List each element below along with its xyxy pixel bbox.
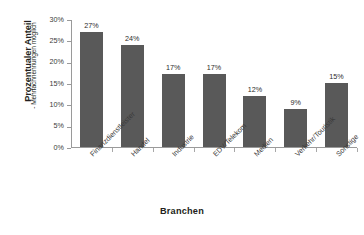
bar-value-label: 12% bbox=[248, 85, 262, 94]
bar-value-label: 17% bbox=[207, 63, 221, 72]
bar-value-label: 9% bbox=[291, 98, 301, 107]
y-axis-tick-label: 20% bbox=[50, 57, 64, 66]
x-axis-tick-mark bbox=[357, 148, 358, 152]
y-axis-tick-label: 0% bbox=[54, 143, 64, 152]
bar-value-label: 27% bbox=[84, 21, 98, 30]
y-axis-tick-label: 5% bbox=[54, 121, 64, 130]
bar-value-label: 24% bbox=[125, 34, 139, 43]
bar: 24% bbox=[121, 45, 144, 147]
y-axis-tick-label: 25% bbox=[50, 36, 64, 45]
x-axis-tick-mark bbox=[316, 148, 317, 152]
x-axis-tick-mark bbox=[275, 148, 276, 152]
y-axis-tick-label: 15% bbox=[50, 79, 64, 88]
bar: 27% bbox=[80, 32, 103, 147]
bar: 17% bbox=[162, 74, 185, 147]
y-axis-tick-mark bbox=[67, 84, 71, 85]
y-axis-tick-mark bbox=[67, 105, 71, 106]
y-axis-tick-label: 30% bbox=[50, 15, 64, 24]
x-axis-tick-mark bbox=[234, 148, 235, 152]
bar: 17% bbox=[203, 74, 226, 147]
x-axis-tick-mark bbox=[194, 148, 195, 152]
bar-value-label: 15% bbox=[329, 72, 343, 81]
y-axis-tick-mark bbox=[67, 41, 71, 42]
x-axis-tick-mark bbox=[112, 148, 113, 152]
x-axis-tick-mark bbox=[153, 148, 154, 152]
x-axis-title: Branchen bbox=[0, 206, 364, 216]
bar-value-label: 17% bbox=[166, 63, 180, 72]
y-axis-tick-mark bbox=[67, 148, 71, 149]
y-axis-title-group: Prozentualer Anteil - Mehrfachnennungen … bbox=[0, 0, 46, 160]
y-axis-subtitle: - Mehrfachnennungen möglich bbox=[30, 0, 37, 132]
y-axis-tick-label: 10% bbox=[50, 100, 64, 109]
y-axis-tick-mark bbox=[67, 63, 71, 64]
y-axis-tick-mark bbox=[67, 127, 71, 128]
y-axis-tick-mark bbox=[67, 20, 71, 21]
bar-chart: Prozentualer Anteil - Mehrfachnennungen … bbox=[0, 0, 364, 235]
y-axis-line bbox=[71, 20, 72, 148]
